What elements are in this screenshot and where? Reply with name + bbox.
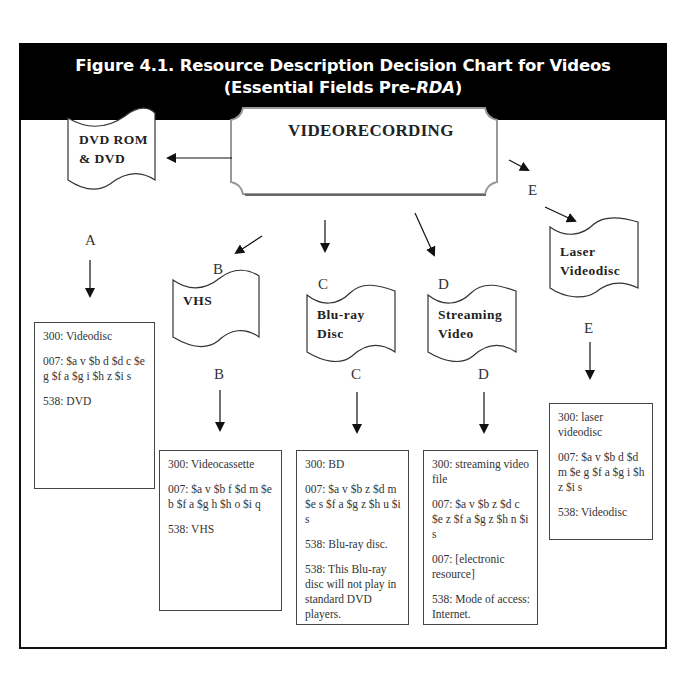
field-538-a: 538: Blu-ray disc.	[305, 537, 402, 552]
record-box-laser: 300: laser videodisc 007: $a v $b d $d m…	[549, 403, 653, 540]
letter-e-top: E	[528, 182, 537, 199]
format-label-streaming: Streaming Video	[438, 305, 502, 343]
record-box-bluray: 300: BD 007: $a v $b z $d m $e s $f a $g…	[296, 450, 409, 625]
letter-c-bottom: C	[351, 366, 361, 383]
record-box-streaming: 300: streaming video file 007: $a v $b z…	[423, 450, 538, 625]
field-007: 007: $a v $b d $d m $e g $f a $g i $h z …	[558, 450, 646, 495]
letter-b-bottom: B	[214, 366, 224, 383]
field-300: 300: BD	[305, 457, 402, 472]
field-007: 007: $a v $b z $d m $e s $f a $g z $h u …	[305, 482, 402, 527]
arrow-to-vhs	[236, 236, 262, 253]
field-007-a: 007: $a v $b z $d c $e z $f a $g z $h n …	[432, 497, 531, 542]
arrow-to-e-label	[509, 160, 528, 170]
letter-e-bottom: E	[584, 320, 593, 337]
letter-d-top: D	[438, 276, 449, 293]
letter-c-top: C	[318, 276, 328, 293]
field-300: 300: Videodisc	[43, 329, 148, 344]
record-box-vhs: 300: Videocassette 007: $a v $b f $d m $…	[159, 450, 282, 611]
field-007: 007: $a v $b f $d m $e b $f a $g h $h o …	[168, 482, 275, 512]
root-label: VIDEORECORDING	[288, 121, 454, 141]
field-538: 538: DVD	[43, 394, 148, 409]
arrow-to-streaming	[415, 213, 434, 255]
field-538: 538: VHS	[168, 522, 275, 537]
field-300: 300: Videocassette	[168, 457, 275, 472]
letter-b-top: B	[213, 261, 223, 278]
format-label-bluray: Blu-ray Disc	[317, 305, 365, 343]
format-label-dvd: DVD ROM & DVD	[79, 130, 148, 168]
field-300: 300: laser videodisc	[558, 410, 646, 440]
field-300: 300: streaming video file	[432, 457, 531, 487]
format-label-laser: Laser Videodisc	[560, 242, 620, 280]
field-007-b: 007: [electronic resource]	[432, 552, 531, 582]
format-label-vhs: VHS	[183, 291, 212, 310]
field-538: 538: Videodisc	[558, 505, 646, 520]
letter-d-bottom: D	[478, 366, 489, 383]
field-538: 538: Mode of access: Internet.	[432, 592, 531, 622]
record-box-dvd: 300: Videodisc 007: $a v $b d $d c $e g …	[34, 322, 155, 489]
letter-a: A	[85, 232, 96, 249]
field-007: 007: $a v $b d $d c $e g $f a $g i $h z …	[43, 354, 148, 384]
field-538-b: 538: This Blu-ray disc will not play in …	[305, 562, 402, 622]
arrow-to-laser	[545, 207, 575, 221]
